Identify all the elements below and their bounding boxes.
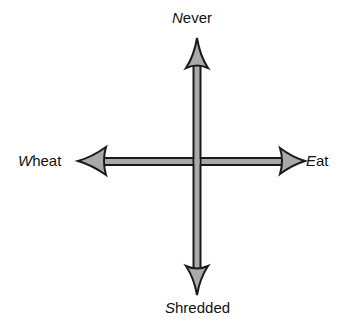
arrowhead-right-icon xyxy=(280,148,305,174)
label-top-rest: ever xyxy=(183,9,212,26)
label-right-initial: E xyxy=(306,152,316,169)
label-bottom-shredded: Shredded xyxy=(165,300,230,315)
label-left-wheat: Wheat xyxy=(18,153,61,168)
vertical-axis-arrow xyxy=(186,38,208,295)
arrowhead-down-icon xyxy=(186,266,208,295)
label-bottom-rest: hredded xyxy=(175,299,230,316)
quadrant-diagram: Never Wheat Eat Shredded xyxy=(0,0,349,320)
arrowhead-up-icon xyxy=(186,38,208,68)
arrowhead-left-icon xyxy=(78,147,106,175)
label-top-never: Never xyxy=(172,10,212,25)
label-right-rest: at xyxy=(316,152,329,169)
label-left-rest: heat xyxy=(32,152,61,169)
axis-intersection xyxy=(195,159,200,164)
label-right-eat: Eat xyxy=(306,153,329,168)
label-left-initial: W xyxy=(18,152,32,169)
horizontal-axis-arrow xyxy=(78,147,305,175)
label-bottom-initial: S xyxy=(165,299,175,316)
label-top-initial: N xyxy=(172,9,183,26)
